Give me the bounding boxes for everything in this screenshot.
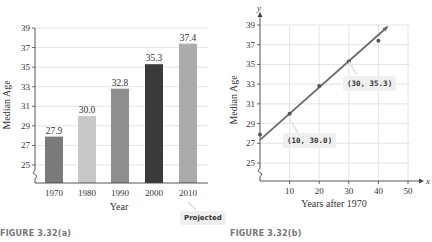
data-point — [347, 59, 351, 63]
y-tick-label: 33 — [246, 79, 256, 89]
data-point — [288, 112, 292, 116]
axis-break-icon — [33, 170, 37, 183]
x-tick-label: 10 — [285, 186, 295, 196]
chart-b-y-axis-letter: y — [256, 3, 261, 13]
x-tick-label: 2000 — [145, 188, 164, 198]
data-point — [376, 39, 380, 43]
callout-pointer-30 — [349, 62, 357, 75]
axis-break-icon — [258, 168, 262, 181]
y-tick-label: 33 — [21, 82, 31, 92]
y-tick-label: 35 — [246, 59, 256, 69]
x-tick-label: 30 — [344, 186, 354, 196]
y-tick-label: 25 — [246, 158, 256, 168]
x-tick-label: 20 — [315, 186, 325, 196]
figure-caption-b: FIGURE 3.32(b) — [230, 229, 302, 238]
bar-1970: 27.9 — [45, 126, 63, 183]
x-tick-label: 1980 — [78, 188, 97, 198]
chart-a-y-label: Median Age — [1, 80, 12, 130]
y-axis-arrow-icon — [258, 12, 263, 17]
y-tick-label: 27 — [246, 138, 256, 148]
projected-pointer — [188, 202, 196, 210]
x-tick-label: 1990 — [111, 188, 130, 198]
chart-a-x-label: Year — [110, 201, 129, 212]
projected-callout: Projected — [180, 211, 226, 225]
y-tick-label: 35 — [21, 62, 31, 72]
callout-point-30: (30, 35.3) — [343, 76, 396, 91]
y-tick-label: 31 — [246, 99, 255, 109]
x-axis-arrow-icon — [419, 179, 424, 184]
y-tick-label: 25 — [21, 160, 31, 170]
bar-value-label: 37.4 — [180, 33, 197, 43]
bar-1990: 32.8 — [111, 78, 129, 183]
y-tick-label: 29 — [246, 119, 256, 129]
y-tick-label: 37 — [246, 40, 256, 50]
line-arrow-icon — [382, 26, 388, 32]
y-tick-label: 39 — [246, 20, 256, 30]
y-tick-label: 29 — [21, 121, 31, 131]
chart-b-ticks: 25272931333537391020304050 — [246, 20, 413, 196]
x-tick-label: 40 — [374, 186, 384, 196]
chart-a-x-ticks: 19701980199020002010 — [45, 188, 198, 198]
x-tick-label: 1970 — [45, 188, 64, 198]
bar-1980: 30.0 — [78, 105, 96, 183]
bar-value-label: 32.8 — [112, 78, 129, 88]
data-point — [258, 132, 262, 136]
chart-b-x-axis-letter: x — [425, 176, 430, 186]
callout-pointer-10 — [290, 120, 298, 133]
bar-2000: 35.3 — [145, 53, 163, 183]
y-tick-label: 31 — [21, 101, 30, 111]
chart-a-bars: 27.930.032.835.337.4 — [45, 33, 197, 183]
chart-b-gridlines — [260, 25, 410, 181]
callout-point-10: (10, 30.0) — [283, 133, 336, 148]
chart-a-y-ticks: 2527293133353739 — [21, 23, 35, 170]
x-tick-label: 2010 — [179, 188, 198, 198]
bar-value-label: 27.9 — [46, 126, 63, 136]
chart-b-x-label: Years after 1970 — [301, 198, 367, 209]
y-tick-label: 39 — [21, 23, 31, 33]
chart-b-axes — [258, 12, 425, 184]
x-tick-label: 50 — [404, 186, 414, 196]
bar-2010: 37.4 — [179, 33, 197, 183]
data-point — [317, 84, 321, 88]
chart-a: 27.930.032.835.337.4 2527293133353739 19… — [0, 0, 220, 242]
figure-caption-a: FIGURE 3.32(a) — [0, 229, 71, 238]
bar-value-label: 35.3 — [146, 53, 163, 63]
bar-value-label: 30.0 — [79, 105, 96, 115]
y-tick-label: 37 — [21, 43, 31, 53]
y-tick-label: 27 — [21, 140, 31, 150]
chart-b-y-label: Median Age — [228, 75, 239, 125]
